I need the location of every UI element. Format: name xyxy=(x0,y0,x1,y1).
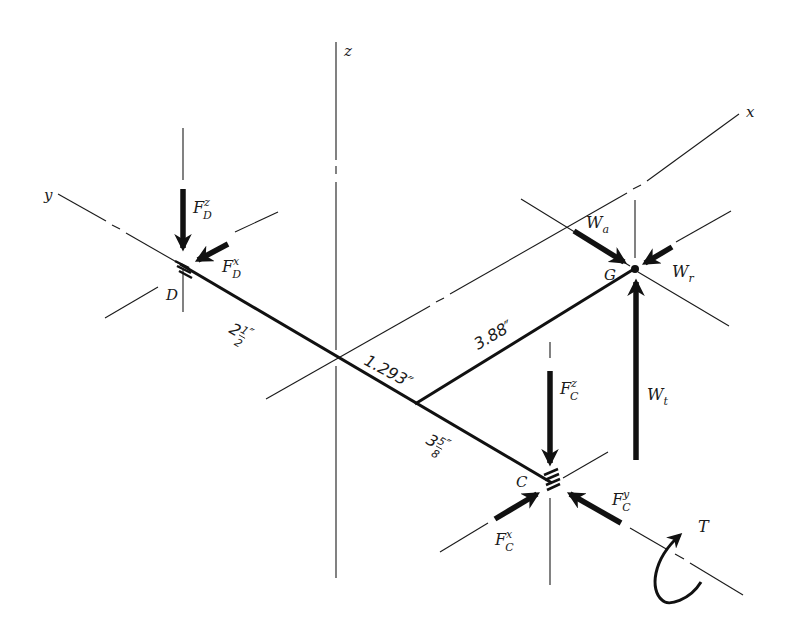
y-axis-label: y xyxy=(43,186,53,204)
force-wa-label: Wa xyxy=(586,213,609,236)
point-c-label: C xyxy=(516,473,528,491)
dim-junction-to-c: 35″ 8 xyxy=(420,427,454,463)
force-fcy-label: FyC xyxy=(611,488,631,514)
force-wa-arrow xyxy=(574,231,624,262)
force-wr-label: Wr xyxy=(672,262,694,285)
gear-g-crosshairs xyxy=(521,199,731,326)
bearing-c-symbol xyxy=(544,469,560,490)
force-fcx-label: FxC xyxy=(494,528,514,554)
shaft xyxy=(180,264,552,483)
torque-t-arrow xyxy=(655,535,701,603)
bearing-d-crosshairs xyxy=(105,128,278,318)
force-fcz-label: FzC xyxy=(559,377,579,403)
force-fdz-label: FzD xyxy=(192,196,212,222)
z-axis: z xyxy=(336,42,352,578)
point-g-dot xyxy=(631,265,639,273)
gear-radius-arm xyxy=(415,269,634,404)
force-wt-label: Wt xyxy=(647,385,668,408)
force-wr-arrow xyxy=(645,247,672,263)
dim-d-to-origin: 21″ 2 xyxy=(223,316,257,352)
dim-junction-to-g: 3.88″ xyxy=(471,316,517,353)
bearing-c-crosshairs xyxy=(440,342,608,585)
x-axis: x xyxy=(266,103,755,399)
force-fcx-arrow xyxy=(495,494,537,519)
torque-t-label: T xyxy=(698,517,710,536)
x-axis-label: x xyxy=(746,103,755,121)
point-g-label: G xyxy=(604,266,616,284)
point-d-label: D xyxy=(165,286,178,304)
z-axis-label: z xyxy=(343,42,352,60)
force-fdx-label: FxD xyxy=(221,255,241,281)
shaft-free-body-diagram: z x y D FzD FxD xyxy=(0,0,785,633)
